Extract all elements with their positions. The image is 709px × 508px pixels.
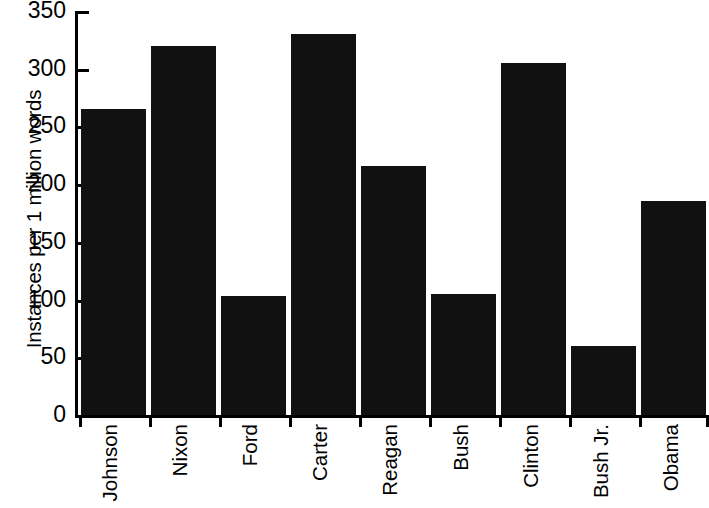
bar xyxy=(501,63,566,415)
y-axis-tick-label: 300 xyxy=(4,57,66,80)
y-axis-tick-label: 50 xyxy=(4,345,66,368)
bar xyxy=(151,46,216,415)
y-axis-tick-label: 100 xyxy=(4,288,66,311)
bar xyxy=(361,166,426,415)
bar xyxy=(221,296,286,415)
x-axis-tick-label: Bush Jr. xyxy=(591,424,612,498)
plot-area xyxy=(75,11,709,418)
x-axis-label-slot: Obama xyxy=(636,424,706,508)
bar xyxy=(291,34,356,415)
bar xyxy=(641,201,706,415)
x-axis-label-slot: Ford xyxy=(215,424,285,508)
bar-series xyxy=(78,11,709,415)
x-axis-label-slot: Bush xyxy=(426,424,496,508)
bar xyxy=(431,294,496,415)
x-axis-tick-label: Nixon xyxy=(170,424,191,476)
x-axis-tick-label: Bush xyxy=(450,424,471,471)
bar-chart: Instances per 1 million words 0501001502… xyxy=(0,0,709,508)
x-axis-label-slot: Johnson xyxy=(75,424,145,508)
bar xyxy=(81,109,146,415)
x-axis-tick-label: Obama xyxy=(661,424,682,491)
x-axis-tick-labels: JohnsonNixonFordCarterReaganBushClintonB… xyxy=(75,424,709,508)
y-axis-tick-label: 200 xyxy=(4,172,66,195)
x-axis-label-slot: Reagan xyxy=(355,424,425,508)
x-axis-tick-label: Reagan xyxy=(380,424,401,496)
x-axis-label-slot: Carter xyxy=(285,424,355,508)
y-axis-tick-label: 150 xyxy=(4,230,66,253)
x-axis-tick-label: Johnson xyxy=(100,424,121,502)
y-axis-tick-label: 350 xyxy=(4,0,66,22)
y-axis-tick-labels: 050100150200250300350 xyxy=(0,0,66,508)
y-axis-tick-label: 250 xyxy=(4,114,66,137)
x-axis-label-slot: Clinton xyxy=(496,424,566,508)
bar xyxy=(571,346,636,415)
x-axis-label-slot: Nixon xyxy=(145,424,215,508)
x-axis-tick-label: Clinton xyxy=(520,424,541,488)
x-axis-line xyxy=(75,415,709,418)
y-axis-tick-label: 0 xyxy=(4,403,66,426)
x-axis-tick-label: Carter xyxy=(310,424,331,481)
x-axis-label-slot: Bush Jr. xyxy=(566,424,636,508)
x-axis-tick-label: Ford xyxy=(240,424,261,466)
